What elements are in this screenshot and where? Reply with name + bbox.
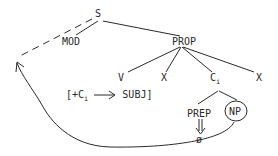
- edge-dashed: [18, 19, 92, 57]
- node-prep: PREP: [187, 108, 211, 119]
- edge-c-prep: [198, 91, 218, 104]
- right-arrow-icon: [94, 90, 116, 100]
- node-x2: X: [256, 72, 262, 83]
- node-v: V: [118, 72, 124, 83]
- node-prop: PROP: [172, 36, 196, 47]
- rule-open: [+C: [66, 89, 84, 100]
- edge-prop-c: [182, 47, 212, 72]
- tree-lines: [0, 0, 278, 156]
- rule-subscript: i: [84, 95, 88, 103]
- node-empty: ø: [196, 134, 202, 145]
- node-c: Ci: [210, 72, 220, 85]
- node-s: S: [95, 8, 101, 19]
- node-np: NP: [229, 106, 241, 117]
- edge-s-prop: [103, 21, 180, 36]
- transformation-rule: [+Ci SUBJ]: [66, 89, 152, 100]
- node-mod: MOD: [62, 36, 80, 47]
- edge-c-np: [219, 91, 237, 100]
- edge-s-mod: [76, 21, 98, 35]
- rule-target: SUBJ]: [122, 89, 152, 100]
- edge-prop-x1: [166, 47, 181, 72]
- node-x1: X: [161, 72, 167, 83]
- node-c-subscript: i: [216, 78, 220, 86]
- edge-prop-x2: [183, 47, 254, 72]
- edge-prop-v: [128, 47, 180, 72]
